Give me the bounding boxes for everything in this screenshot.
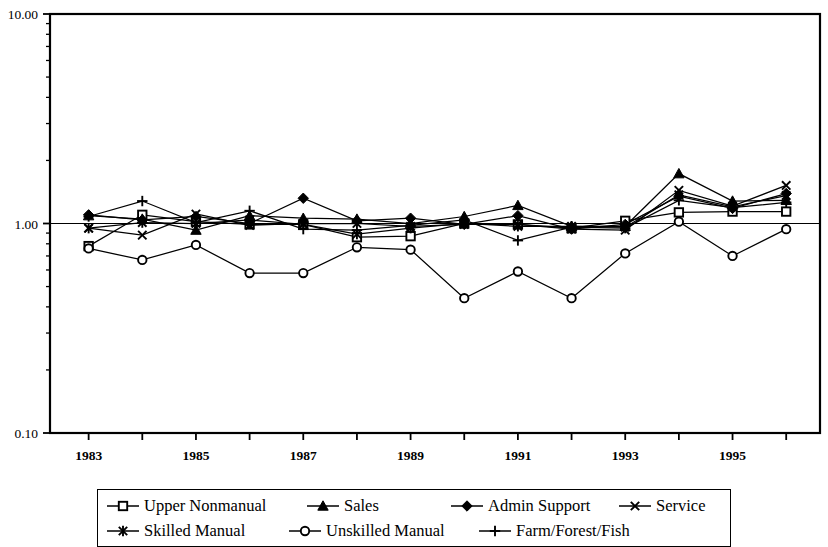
x-axis-tick-label: 1989 — [397, 448, 424, 463]
legend-item-upper-nonmanual[interactable]: Upper Nonmanual — [106, 493, 266, 519]
y-axis-tick-label: 10.00 — [8, 7, 39, 22]
legend-marker-filled-triangle — [306, 498, 340, 514]
marker-open-circle — [514, 267, 522, 275]
legend-items-container: Upper NonmanualSalesAdmin SupportService… — [98, 490, 730, 546]
chart-series — [84, 181, 790, 239]
legend-marker-cross-x — [618, 498, 652, 514]
marker-open-circle — [406, 245, 414, 253]
marker-open-circle — [728, 252, 736, 260]
marker-open-circle — [782, 225, 790, 233]
marker-open-square — [782, 207, 790, 215]
marker-filled-diamond — [462, 501, 472, 511]
legend-item-label: Farm/Forest/Fish — [516, 522, 630, 540]
marker-open-circle — [675, 217, 683, 225]
line-chart: 10.001.000.10198319851987198919911993199… — [0, 0, 828, 480]
legend-item-label: Upper Nonmanual — [144, 497, 266, 515]
marker-open-square — [675, 208, 683, 216]
legend-marker-open-square — [106, 498, 140, 514]
x-axis-tick-label: 1993 — [612, 448, 639, 463]
legend-item-farm-forest-fish[interactable]: Farm/Forest/Fish — [478, 518, 630, 544]
marker-open-circle — [301, 527, 309, 535]
legend-item-label: Service — [656, 497, 705, 515]
chart-legend: Upper NonmanualSalesAdmin SupportService… — [97, 489, 731, 547]
marker-filled-triangle — [674, 168, 684, 177]
marker-open-circle — [567, 294, 575, 302]
legend-item-skilled-manual[interactable]: Skilled Manual — [106, 518, 245, 544]
marker-open-circle — [353, 243, 361, 251]
marker-open-circle — [84, 244, 92, 252]
legend-item-label: Unskilled Manual — [326, 522, 445, 540]
marker-open-circle — [621, 249, 629, 257]
y-axis-tick-label: 1.00 — [14, 217, 38, 232]
marker-open-circle — [138, 256, 146, 264]
marker-open-circle — [299, 269, 307, 277]
legend-item-admin-support[interactable]: Admin Support — [450, 493, 590, 519]
legend-marker-asterisk — [106, 523, 140, 539]
legend-item-sales[interactable]: Sales — [306, 493, 379, 519]
legend-marker-filled-diamond — [450, 498, 484, 514]
marker-open-circle — [460, 294, 468, 302]
legend-item-service[interactable]: Service — [618, 493, 705, 519]
marker-open-circle — [245, 269, 253, 277]
legend-marker-plus — [478, 523, 512, 539]
legend-item-unskilled-manual[interactable]: Unskilled Manual — [288, 518, 445, 544]
x-axis-tick-label: 1985 — [182, 448, 209, 463]
marker-open-circle — [192, 241, 200, 249]
x-axis-tick-label: 1991 — [504, 448, 531, 463]
marker-filled-triangle — [513, 200, 523, 209]
x-axis-tick-label: 1983 — [75, 448, 102, 463]
legend-marker-open-circle — [288, 523, 322, 539]
chart-series — [83, 188, 791, 234]
legend-item-label: Skilled Manual — [144, 522, 245, 540]
marker-filled-diamond — [298, 193, 308, 203]
chart-plot-area: 10.001.000.10198319851987198919911993199… — [8, 7, 820, 463]
x-axis-tick-label: 1995 — [719, 448, 746, 463]
y-axis-tick-label: 0.10 — [14, 426, 38, 441]
chart-page: 10.001.000.10198319851987198919911993199… — [0, 0, 828, 547]
legend-item-label: Sales — [344, 497, 379, 515]
legend-item-label: Admin Support — [488, 497, 590, 515]
marker-open-square — [119, 502, 127, 510]
x-axis-tick-label: 1987 — [290, 448, 317, 463]
